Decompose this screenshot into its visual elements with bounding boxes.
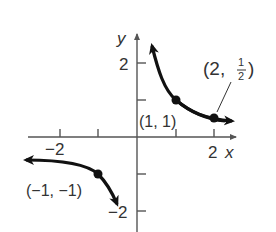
svg-text:): ) <box>248 58 254 79</box>
point-label-2-half: (2, 1 2 ) <box>203 56 254 82</box>
y-axis-label: y <box>116 29 127 48</box>
point-label-1-1: (1, 1) <box>139 113 176 130</box>
pointer-line <box>217 82 231 112</box>
point-neg1-neg1 <box>94 170 103 179</box>
graph-canvas: y x 2 2 −2 −2 (1, 1) (−1, −1) (2, 1 2 ) <box>0 0 276 232</box>
point-2-half <box>210 114 219 123</box>
svg-text:(2,: (2, <box>203 58 225 79</box>
x-axis-label: x <box>224 143 234 162</box>
svg-text:1: 1 <box>238 56 244 68</box>
tick-label-x2: 2 <box>208 143 217 162</box>
point-label-neg1-neg1: (−1, −1) <box>26 182 82 199</box>
tick-label-yneg2: −2 <box>108 203 127 222</box>
point-1-1 <box>172 96 181 105</box>
curve-branch-negative <box>26 160 98 174</box>
tick-label-xneg2: −2 <box>45 140 64 159</box>
tick-label-y2: 2 <box>119 55 128 74</box>
svg-text:2: 2 <box>238 70 244 82</box>
